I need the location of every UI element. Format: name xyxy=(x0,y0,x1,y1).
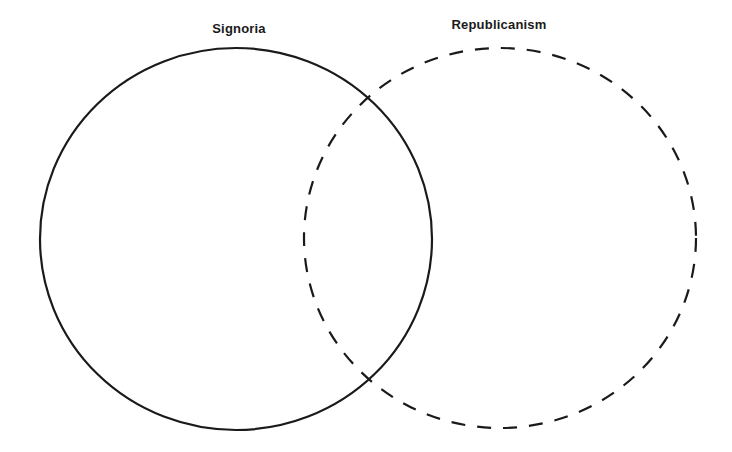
signoria-label: Signoria xyxy=(212,21,266,36)
republicanism-label: Republicanism xyxy=(451,17,546,32)
signoria-circle xyxy=(40,48,432,430)
republicanism-circle xyxy=(304,48,696,428)
venn-diagram xyxy=(0,0,732,452)
